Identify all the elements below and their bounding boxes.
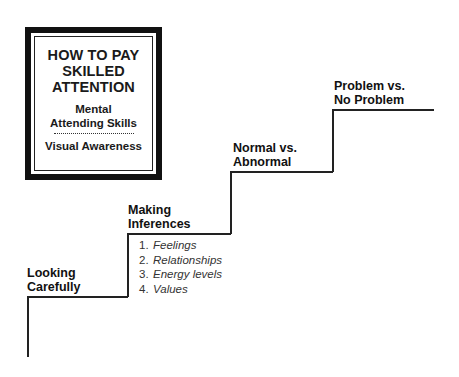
box-subtitle-line: Attending Skills [35,116,152,130]
stair-tread-2 [127,233,231,235]
step-label-line: Making [128,203,191,217]
list-item: 3.Energy levels [139,267,222,282]
box-title-line: ATTENTION [35,79,152,95]
stair-baseline-vertical [27,296,29,357]
list-text: Feelings [153,239,196,251]
list-number: 4. [139,282,151,297]
list-item: 1.Feelings [139,238,222,253]
title-box: HOW TO PAY SKILLED ATTENTION Mental Atte… [25,27,162,180]
step-label-line: Abnormal [233,155,297,169]
step-label-line: Carefully [27,280,81,294]
step-label-problem-no-problem: Problem vs. No Problem [334,79,405,107]
step-label-line: No Problem [334,93,405,107]
box-subtitle: Mental Attending Skills [35,102,152,130]
step-label-line: Problem vs. [334,79,405,93]
step-label-looking-carefully: Looking Carefully [27,266,81,294]
list-number: 3. [139,267,151,282]
stair-tread-3 [230,171,333,173]
box-title: HOW TO PAY SKILLED ATTENTION [35,47,152,95]
box-footer: Visual Awareness [35,139,152,153]
list-number: 2. [139,253,151,268]
step-label-line: Inferences [128,217,191,231]
list-number: 1. [139,238,151,253]
step-label-line: Normal vs. [233,141,297,155]
dotted-separator [54,133,134,134]
step-label-line: Looking [27,266,81,280]
step-label-normal-abnormal: Normal vs. Abnormal [233,141,297,169]
title-box-inner: HOW TO PAY SKILLED ATTENTION Mental Atte… [34,36,153,171]
stair-tread-4 [332,109,434,111]
list-text: Values [153,283,188,295]
box-title-line: HOW TO PAY [35,47,152,63]
stair-riser-3 [332,109,334,172]
list-item: 2.Relationships [139,253,222,268]
box-title-line: SKILLED [35,63,152,79]
list-text: Energy levels [153,268,222,280]
box-subtitle-line: Mental [35,102,152,116]
step-label-making-inferences: Making Inferences [128,203,191,231]
stair-riser-2 [230,171,232,234]
list-item: 4.Values [139,282,222,297]
stair-tread-1 [27,296,128,298]
stair-riser-1 [127,233,129,297]
list-text: Relationships [153,254,222,266]
inferences-list: 1.Feelings 2.Relationships 3.Energy leve… [139,238,222,296]
